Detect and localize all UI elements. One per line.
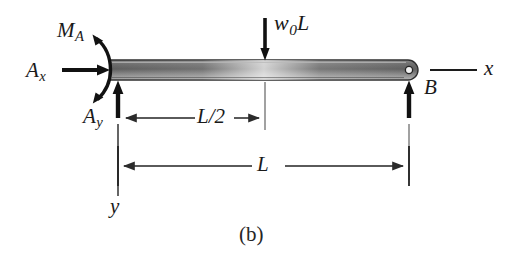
reaction-ay-arrow [113, 81, 124, 119]
reaction-b-arrow [404, 81, 415, 119]
label-reaction-ax: Ax [26, 60, 46, 84]
label-dimension-l-full: L [257, 154, 269, 175]
label-reaction-ay: Ay [83, 106, 103, 130]
label-moment-ma: MA [57, 20, 84, 44]
reaction-ax-arrow [62, 65, 110, 76]
applied-load-arrow [260, 18, 269, 61]
free-body-diagram-figure: MA Ax Ay w0L B x y L/2 L (b) [0, 0, 507, 267]
label-dimension-l-half: L/2 [197, 106, 225, 127]
beam-member [110, 60, 418, 80]
figure-caption: (b) [239, 222, 264, 247]
label-applied-load: w0L [274, 12, 309, 37]
label-point-b: B [424, 77, 437, 98]
label-axis-y: y [110, 196, 119, 217]
label-axis-x: x [484, 58, 493, 79]
pin-hole-b [405, 66, 412, 73]
